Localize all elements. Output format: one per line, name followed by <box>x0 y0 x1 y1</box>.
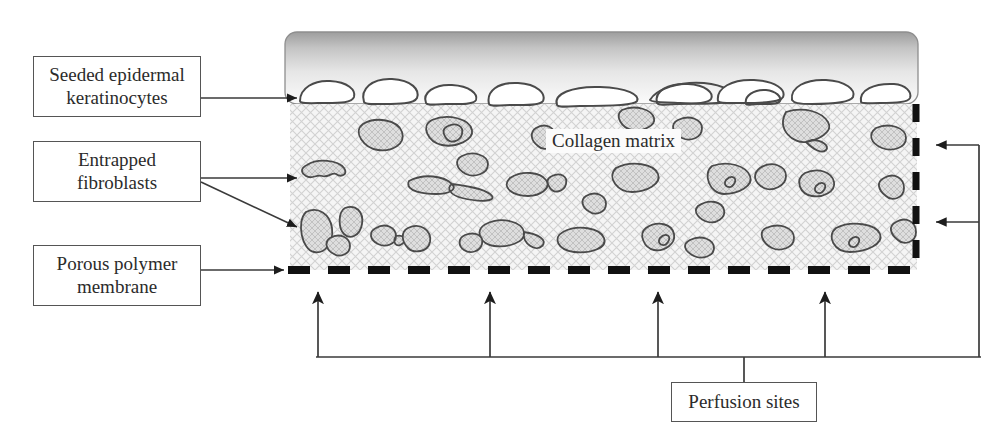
label-membrane-line2: membrane <box>53 276 182 298</box>
label-box-seeded-epidermal-keratinocytes: Seeded epidermal keratinocytes <box>33 56 201 117</box>
label-box-entrapped-fibroblasts: Entrapped fibroblasts <box>33 141 201 202</box>
label-fibroblasts-text: Entrapped fibroblasts <box>69 149 165 194</box>
label-fibroblasts-line2: fibroblasts <box>73 172 161 194</box>
label-perfusion-text: Perfusion sites <box>684 391 803 413</box>
label-collagen-matrix: Collagen matrix <box>546 129 681 153</box>
label-keratinocytes-line1: Seeded epidermal <box>45 64 189 86</box>
figure-canvas: Seeded epidermal keratinocytes Entrapped… <box>0 0 1005 447</box>
perfusion-arrows-right <box>936 145 979 357</box>
label-box-porous-polymer-membrane: Porous polymer membrane <box>33 245 201 306</box>
perfusion-arrows-bottom <box>318 292 825 357</box>
label-fibroblasts-line1: Entrapped <box>73 149 161 171</box>
label-keratinocytes-text: Seeded epidermal keratinocytes <box>41 64 193 109</box>
label-box-perfusion-sites: Perfusion sites <box>671 382 817 422</box>
label-membrane-text: Porous polymer membrane <box>49 253 186 298</box>
label-keratinocytes-line2: keratinocytes <box>45 87 189 109</box>
connector-fibroblasts <box>201 178 297 227</box>
label-membrane-line1: Porous polymer <box>53 253 182 275</box>
perfusion-bus-line <box>316 357 981 382</box>
